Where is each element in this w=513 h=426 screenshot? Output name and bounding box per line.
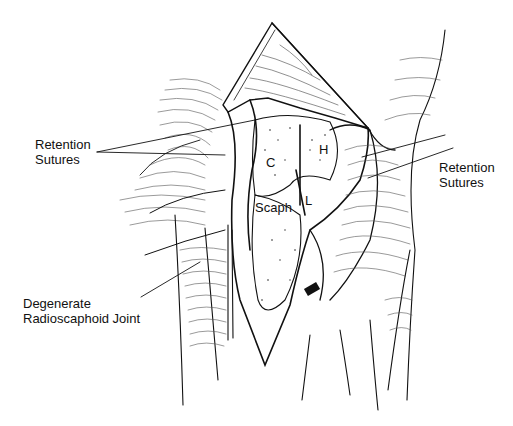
retracted-skin-flap (223, 23, 368, 128)
label-lunate: L (305, 194, 312, 208)
wound-opening (228, 100, 368, 365)
label-retention-sutures-left: Retention Sutures (35, 137, 91, 167)
label-scaphoid: Scaph (255, 201, 292, 215)
label-hamate: H (319, 143, 328, 157)
left-limb-outline (175, 215, 233, 405)
label-retention-sutures-right: Retention Sutures (439, 160, 495, 190)
label-capitate: C (266, 156, 275, 170)
label-degenerate-radioscaphoid-joint: Degenerate Radioscaphoid Joint (23, 296, 140, 326)
